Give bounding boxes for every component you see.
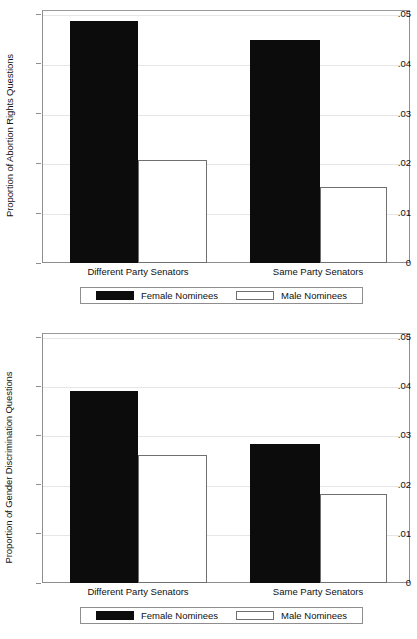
- legend-label-male: Male Nominees: [281, 290, 347, 301]
- bar-female-different-party: [70, 391, 138, 583]
- legend-label-female: Female Nominees: [141, 610, 218, 621]
- bar-male-same-party: [320, 187, 387, 263]
- legend-swatch-male: [236, 291, 274, 300]
- legend: Female Nominees Male Nominees: [80, 287, 363, 304]
- legend-swatch-male: [236, 611, 274, 620]
- legend: Female Nominees Male Nominees: [80, 607, 363, 624]
- legend-label-male: Male Nominees: [281, 610, 347, 621]
- bar-female-same-party: [250, 444, 320, 583]
- bar-male-same-party: [320, 494, 387, 583]
- bar-series-group: [0, 0, 417, 263]
- figure-page: Proportion of Abortion Rights Questions …: [0, 0, 417, 639]
- bar-male-different-party: [138, 160, 207, 263]
- x-axis-label-same-party: Same Party Senators: [238, 266, 398, 277]
- legend-entry-female: Female Nominees: [96, 610, 218, 621]
- legend-swatch-female: [96, 291, 134, 300]
- chart-gender-discrimination: Proportion of Gender Discrimination Ques…: [0, 320, 417, 639]
- x-axis-label-different-party: Different Party Senators: [58, 266, 218, 277]
- bar-female-same-party: [250, 40, 320, 263]
- legend-entry-male: Male Nominees: [236, 290, 347, 301]
- bar-series-group: [0, 320, 417, 583]
- bar-female-different-party: [70, 21, 138, 263]
- bar-male-different-party: [138, 455, 207, 583]
- chart-abortion-rights: Proportion of Abortion Rights Questions …: [0, 0, 417, 320]
- legend-label-female: Female Nominees: [141, 290, 218, 301]
- legend-entry-female: Female Nominees: [96, 290, 218, 301]
- legend-swatch-female: [96, 611, 134, 620]
- x-axis-label-different-party: Different Party Senators: [58, 586, 218, 597]
- x-axis-label-same-party: Same Party Senators: [238, 586, 398, 597]
- legend-entry-male: Male Nominees: [236, 610, 347, 621]
